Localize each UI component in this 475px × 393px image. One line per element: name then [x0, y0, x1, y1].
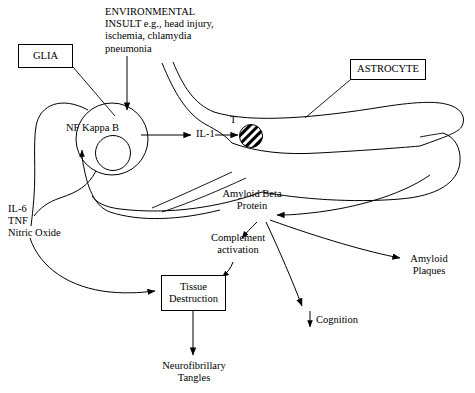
- complement-activation-label: Complement activation: [196, 232, 280, 256]
- cytokines-label: IL-6 TNF Nitric Oxide: [8, 203, 104, 240]
- neurofibrillary-tangles-label: Neurofibrillary Tangles: [146, 360, 242, 384]
- environmental-insult-label: ENVIRONMENTAL INSULT e.g., head injury, …: [105, 6, 235, 55]
- astrocyte-nucleus-hatched: [240, 125, 263, 148]
- glia-box-leader-line: [73, 67, 115, 116]
- amyloid-beta-protein-label: Amyloid Beta Protein: [210, 188, 294, 212]
- glia-cell-nucleus: [96, 136, 131, 171]
- amyloid-to-plaques-arrow: [270, 220, 400, 258]
- astrocyte-right-tip-upper: [420, 106, 464, 146]
- astrocyte-notch-line: [420, 133, 443, 137]
- il-1-label: IL-1: [196, 128, 215, 140]
- astrocyte-to-amyloid-arrow: [277, 175, 430, 215]
- astrocyte-lower-outline: [232, 143, 420, 154]
- nf-kappa-b-label: NF Kappa B: [66, 122, 119, 134]
- amyloid-plaques-label: Amyloid Plaques: [398, 253, 460, 277]
- cognition-label: Cognition: [316, 314, 358, 326]
- diagram-canvas: GLIA ASTROCYTE ENVIRONMENTAL INSULT e.g.…: [0, 0, 475, 393]
- glia-cell-membrane: [76, 103, 148, 175]
- astrocyte-label-box[interactable]: ASTROCYTE: [350, 59, 426, 80]
- cytokines-to-tissue-arrow: [30, 238, 155, 293]
- tissue-destruction-box[interactable]: Tissue Destruction: [161, 275, 226, 311]
- glia-label-box[interactable]: GLIA: [18, 44, 73, 68]
- receptor-t-label: T: [230, 114, 236, 126]
